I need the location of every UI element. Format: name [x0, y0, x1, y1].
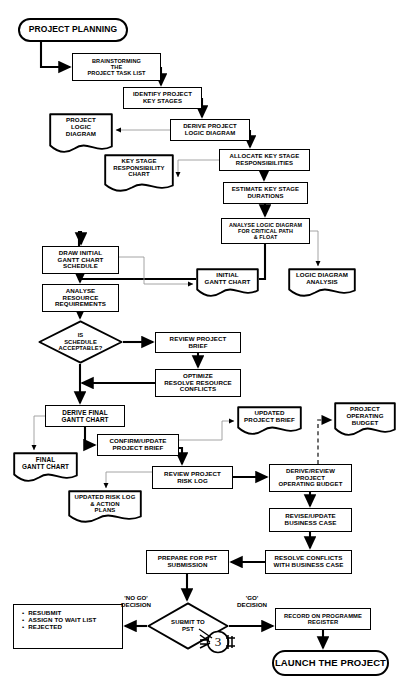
node-label: UPDATEDPROJECT BRIEF	[237, 410, 302, 424]
node-label: DERIVE FINALGANTT CHART	[61, 409, 108, 423]
node-project-planning: PROJECT PLANNING	[18, 18, 128, 42]
node-final-gantt-chart: FINALGANTT CHART	[13, 452, 78, 486]
node-label: KEY STAGERESPONSIBILITYCHART	[104, 158, 174, 178]
node-label: PROJECT PLANNING	[29, 25, 118, 35]
node-allocate-responsibility: ALLOCATE KEY STAGERESPONSIBILITIES	[219, 149, 310, 171]
edge-dashed-budget	[318, 420, 331, 464]
node-label: FINALGANTT CHART	[13, 456, 78, 470]
node-project-logic-diagram: PROJECTLOGICDIAGRAM	[49, 113, 113, 157]
node-label: ESTIMATE KEY STAGEDURATIONS	[232, 186, 299, 199]
node-identify-key-stages: IDENTIFY PROJECTKEY STAGES	[123, 87, 202, 109]
node-label: ISSCHEDULEACCEPTABLE?	[44, 332, 117, 351]
node-no-go-outcomes: RESUBMITASSIGN TO WAIT LISTREJECTED	[13, 604, 123, 649]
node-key-stage-resp-chart: KEY STAGERESPONSIBILITYCHART	[104, 154, 174, 196]
node-label: PREPARE FOR PSTSUBMISSION	[158, 555, 218, 569]
node-confirm-update-brief: CONFIRM/UPDATEPROJECT BRIEF	[97, 434, 179, 456]
node-label: ALLOCATE KEY STAGERESPONSIBILITIES	[230, 153, 300, 166]
node-analyse-logic-diagram: ANALYSE LOGIC DIAGRAMFOR CRITICAL PATH& …	[221, 218, 310, 244]
node-label: LAUNCH THE PROJECT	[275, 658, 386, 669]
node-review-project-brief: REVIEW PROJECTBRIEF	[155, 332, 241, 353]
node-label: CONFIRM/UPDATEPROJECT BRIEF	[110, 438, 167, 452]
node-label: PROJECTLOGICDIAGRAM	[49, 117, 113, 138]
node-record-on-register: RECORD ON PROGRAMMEREGISTER	[275, 608, 371, 630]
node-revise-business-case: REVISE/UPDATEBUSINESS CASE	[269, 508, 352, 532]
edge-label-no-go-decision: 'NO GO'DECISION	[113, 594, 159, 608]
flowchart-canvas: PROJECT PLANNINGBRAINSTORMINGTHEPROJECT …	[0, 0, 413, 699]
node-label: DERIVE/REVIEWPROJECTOPERATING BUDGET	[279, 468, 343, 488]
node-label: DERIVE PROJECTLOGIC DIAGRAM	[183, 123, 237, 136]
node-label: PROJECTOPERATINGBUDGET	[334, 406, 396, 427]
node-draw-initial-gantt: DRAW INITIALGANTT CHARTSCHEDULE	[42, 246, 119, 274]
node-launch-the-project: LAUNCH THE PROJECT	[272, 650, 389, 676]
node-optimize-resolve: OPTIMIZERESOLVE RESOURCECONFLICTS	[155, 369, 241, 397]
node-label: IDENTIFY PROJECTKEY STAGES	[133, 91, 192, 104]
node-label: UPDATED RISK LOG& ACTIONPLANS	[68, 494, 142, 514]
node-label: LOGIC DIAGRAMANALYSIS	[288, 272, 356, 286]
node-updated-risk-log: UPDATED RISK LOG& ACTIONPLANS	[68, 490, 142, 527]
node-updated-project-brief: UPDATEDPROJECT BRIEF	[237, 406, 302, 439]
edge-label-go-decision: 'GO'DECISION	[230, 594, 274, 608]
node-resolve-conflicts: RESOLVE CONFLICTSWITH BUSINESS CASE	[265, 550, 352, 574]
node-derive-review-budget: DERIVE/REVIEWPROJECTOPERATING BUDGET	[269, 464, 352, 492]
page-connector-icon: 3	[198, 627, 238, 657]
node-is-schedule-acceptable: ISSCHEDULEACCEPTABLE?	[38, 320, 123, 364]
node-derive-logic-diagram: DERIVE PROJECTLOGIC DIAGRAM	[170, 119, 250, 141]
node-derive-final-gantt: DERIVE FINALGANTT CHART	[45, 405, 125, 427]
node-logic-diagram-analysis: LOGIC DIAGRAMANALYSIS	[288, 268, 356, 301]
node-label: OPTIMIZERESOLVE RESOURCECONFLICTS	[164, 373, 232, 394]
node-analyse-resource-req: ANALYSERESOURCEREQUIREMENTS	[42, 284, 119, 312]
node-brainstorming: BRAINSTORMINGTHEPROJECT TASK LIST	[72, 53, 161, 81]
node-label: ANALYSERESOURCEREQUIREMENTS	[55, 288, 106, 309]
node-label: REVIEW PROJECTBRIEF	[170, 336, 227, 350]
node-label: REVIEW PROJECTRISK LOG	[164, 471, 221, 485]
node-initial-gantt-chart: INITIALGANTT CHART	[196, 268, 259, 301]
node-label: ANALYSE LOGIC DIAGRAMFOR CRITICAL PATH& …	[229, 222, 302, 240]
node-label: DRAW INITIALGANTT CHARTSCHEDULE	[58, 250, 104, 271]
node-review-risk-log: REVIEW PROJECTRISK LOG	[152, 466, 233, 489]
node-label: REVISE/UPDATEBUSINESS CASE	[285, 513, 337, 527]
node-label: RESOLVE CONFLICTSWITH BUSINESS CASE	[274, 555, 344, 569]
list-item: REJECTED	[22, 624, 116, 631]
page-connector-number: 3	[198, 627, 238, 657]
node-prepare-pst-submission: PREPARE FOR PSTSUBMISSION	[146, 550, 229, 574]
node-estimate-durations: ESTIMATE KEY STAGEDURATIONS	[223, 182, 308, 204]
node-project-operating-budget: PROJECTOPERATINGBUDGET	[334, 402, 396, 440]
node-label: RECORD ON PROGRAMMEREGISTER	[284, 613, 362, 626]
node-label: INITIALGANTT CHART	[196, 272, 259, 286]
node-label: BRAINSTORMINGTHEPROJECT TASK LIST	[87, 58, 145, 77]
